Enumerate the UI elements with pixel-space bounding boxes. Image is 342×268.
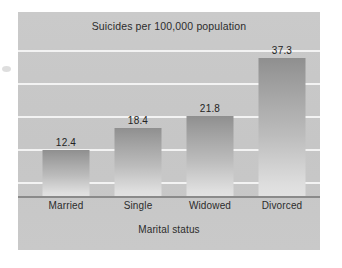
bar-married[interactable]	[43, 150, 90, 196]
chart-canvas: Suicides per 100,000 population 12.4 18.…	[0, 0, 342, 268]
bar-widowed[interactable]	[187, 116, 234, 196]
category-label-single: Single	[104, 200, 172, 211]
x-axis-title: Marital status	[18, 224, 320, 235]
bar-slot-married: 12.4	[32, 12, 100, 196]
bar-single[interactable]	[115, 128, 162, 196]
scan-artifact-speck	[2, 66, 11, 72]
x-axis-line	[18, 196, 320, 198]
bar-divorced[interactable]	[259, 58, 306, 196]
bar-series: 12.4 18.4 21.8 37.3	[18, 12, 320, 196]
bar-value-label: 37.3	[272, 45, 292, 56]
category-axis-labels: Married Single Widowed Divorced	[18, 200, 320, 220]
bar-slot-divorced: 37.3	[248, 12, 316, 196]
bar-value-label: 18.4	[128, 115, 148, 126]
chart-panel: Suicides per 100,000 population 12.4 18.…	[18, 12, 320, 250]
bar-slot-single: 18.4	[104, 12, 172, 196]
bar-value-label: 12.4	[56, 137, 76, 148]
category-label-married: Married	[32, 200, 100, 211]
bar-value-label: 21.8	[200, 103, 220, 114]
bar-slot-widowed: 21.8	[176, 12, 244, 196]
category-label-divorced: Divorced	[248, 200, 316, 211]
category-label-widowed: Widowed	[176, 200, 244, 211]
